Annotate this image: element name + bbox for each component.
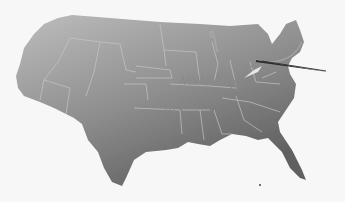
us-map-illustration <box>0 0 345 202</box>
map-svg <box>0 0 345 202</box>
stray-dot <box>259 184 261 186</box>
us-silhouette <box>16 15 306 186</box>
